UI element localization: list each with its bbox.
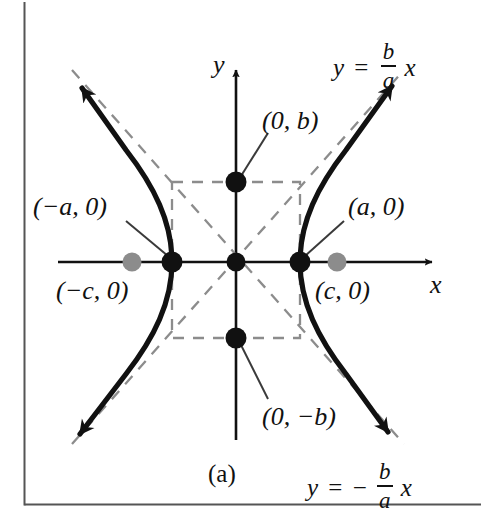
figure-caption: (a): [208, 461, 236, 486]
coordinate-axes: [58, 70, 432, 440]
label-co-vertex-bottom: (0, −b): [262, 404, 336, 430]
focus-left-dot: [123, 253, 142, 272]
vertex-left-dot: [162, 252, 183, 273]
leader-vertex-right: [305, 221, 344, 256]
hyperbola-figure: y x (0, b) (0, −b) (−a, 0) (a, 0) (−c, 0…: [0, 0, 481, 513]
fraction-bar: [377, 485, 393, 487]
label-vertex-right: (a, 0): [348, 194, 404, 220]
focus-right-dot: [328, 253, 347, 272]
leader-vertex-left: [126, 221, 168, 256]
x-axis-label: x: [430, 272, 442, 298]
co-vertex-top-dot: [226, 172, 247, 193]
label-co-vertex-top: (0, b): [262, 108, 318, 134]
asymptote-neg-denominator: a: [377, 488, 393, 512]
fraction-bar: [381, 65, 397, 67]
asymptote-neg-numerator: b: [377, 460, 393, 484]
asymptote-neg-equals: =: [328, 475, 342, 500]
asymptote-pos-equals: =: [354, 55, 368, 80]
center-dot: [227, 253, 246, 272]
asymptote-neg-lhs: y: [307, 475, 318, 500]
asymptote-label-negative: y = − b a x: [307, 462, 412, 513]
asymptote-label-positive: y = b a x: [333, 42, 416, 94]
label-vertex-left: (−a, 0): [33, 194, 107, 220]
label-focus-left: (−c, 0): [56, 278, 128, 304]
asymptote-pos-fraction: b a: [381, 40, 397, 92]
leader-co-vertex-top: [241, 133, 268, 176]
asymptote-neg-sign: −: [353, 475, 367, 500]
y-axis-label: y: [213, 52, 225, 78]
asymptote-pos-lhs: y: [333, 55, 344, 80]
asymptote-neg-variable: x: [401, 475, 412, 500]
left-branch-upper: [82, 88, 172, 262]
leader-co-vertex-bottom: [241, 345, 268, 399]
asymptote-pos-variable: x: [404, 55, 415, 80]
label-focus-right: (c, 0): [315, 278, 370, 304]
asymptote-pos-numerator: b: [381, 40, 397, 64]
vertex-right-dot: [290, 252, 311, 273]
asymptote-pos-denominator: a: [381, 68, 397, 92]
asymptote-neg-fraction: b a: [377, 460, 393, 512]
co-vertex-bottom-dot: [226, 328, 247, 349]
